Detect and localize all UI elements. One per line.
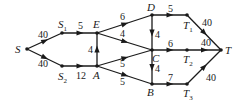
edge-capacity-label: 40 — [202, 17, 212, 28]
edge-capacity-label: 6 — [120, 11, 125, 22]
edge-capacity-label: 6 — [168, 38, 173, 49]
node-label-S2: S2 — [58, 70, 68, 85]
node-S — [25, 47, 29, 51]
edge-capacity-label: 5 — [168, 3, 173, 14]
node-label-S1: S1 — [58, 18, 68, 33]
arrowhead-icon — [149, 64, 154, 71]
edge-S2-A — [62, 63, 97, 68]
node-label-E: E — [92, 18, 100, 30]
arrowhead-icon — [149, 30, 154, 37]
node-label-S: S — [15, 43, 21, 55]
node-label-T2: T2 — [183, 53, 193, 68]
edge-A-E — [94, 33, 99, 66]
arrowhead-icon — [201, 47, 208, 52]
edge-capacity-label: 4 — [155, 63, 160, 74]
arrowhead-icon — [77, 30, 84, 35]
edge-capacity-label: 4 — [155, 29, 160, 40]
node-T3 — [185, 82, 189, 86]
node-label-T3: T3 — [183, 87, 193, 102]
edge-capacity-label: 40 — [38, 58, 48, 69]
node-label-T: T — [225, 44, 232, 56]
node-label-D: D — [146, 1, 155, 13]
edge-capacity-label: 5 — [120, 76, 125, 87]
edge-capacity-label: 7 — [168, 72, 173, 83]
arrowhead-icon — [94, 46, 99, 53]
edge-capacity-label: 40 — [201, 37, 211, 48]
node-E — [95, 31, 99, 35]
flow-network-diagram: 40405124645544567404040 SS1ES2ADCBT1T2T3… — [0, 0, 242, 103]
node-A — [95, 64, 99, 68]
node-S2 — [60, 64, 64, 68]
arrowhead-icon — [77, 63, 84, 68]
edge-S1-E — [62, 30, 97, 35]
edge-capacity-label: 4 — [88, 44, 93, 55]
edge-capacity-label: 12 — [76, 70, 86, 81]
node-label-T1: T1 — [183, 19, 193, 34]
edge-capacity-labels: 40405124645544567404040 — [38, 3, 216, 87]
edge-D-C — [149, 15, 154, 50]
edge-capacity-label: 4 — [120, 28, 125, 39]
edge-capacity-label: 40 — [206, 72, 216, 83]
arrowhead-icon — [121, 38, 129, 45]
node-label-B: B — [147, 86, 154, 98]
node-T1 — [185, 13, 189, 17]
node-T2 — [185, 48, 189, 52]
node-label-A: A — [92, 69, 100, 81]
node-D — [150, 13, 154, 17]
edge-capacity-label: 5 — [78, 20, 83, 31]
node-T — [219, 48, 223, 52]
edge-capacity-label: 5 — [120, 58, 125, 69]
edge-capacity-label: 40 — [38, 29, 48, 40]
edge-T2-T — [187, 47, 221, 52]
node-label-C: C — [152, 52, 160, 64]
